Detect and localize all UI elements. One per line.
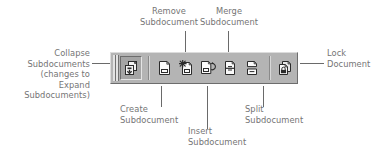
callout-label-create-subdocument: Create Subdocument xyxy=(120,104,186,125)
leader-line-lock xyxy=(300,63,324,64)
toolbar-button-lock-document[interactable] xyxy=(274,56,296,80)
callout-label-lock-document: Lock Document xyxy=(327,48,387,69)
create-subdocument-icon xyxy=(157,60,172,76)
toolbar-button-split-subdocument[interactable] xyxy=(241,56,263,80)
toolbar-button-merge-subdocument[interactable] xyxy=(219,56,241,80)
toolbar-grip-handle[interactable] xyxy=(113,55,119,81)
toolbar-separator-2 xyxy=(269,56,271,80)
toolbar-button-remove-subdocument[interactable] xyxy=(175,56,197,80)
leader-line-collapse xyxy=(92,63,112,64)
collapse-subdocuments-icon xyxy=(123,60,140,77)
leader-line-remove xyxy=(185,31,186,53)
figure-canvas: Collapse Subdocuments (changes to Expand… xyxy=(0,0,390,162)
callout-label-remove-subdocument: Remove Subdocument xyxy=(138,6,200,27)
remove-subdocument-icon xyxy=(179,60,194,76)
split-subdocument-icon xyxy=(245,60,259,76)
insert-subdocument-icon xyxy=(200,60,216,76)
leader-line-insert xyxy=(207,86,208,129)
callout-label-split-subdocument: Split Subdocument xyxy=(245,104,311,125)
toolbar-button-insert-subdocument[interactable] xyxy=(197,56,219,80)
master-document-toolbar[interactable] xyxy=(110,52,298,84)
callout-label-collapse-subdocuments: Collapse Subdocuments (changes to Expand… xyxy=(6,48,90,101)
toolbar-separator-1 xyxy=(148,56,150,80)
leader-line-create xyxy=(161,86,162,107)
callout-label-merge-subdocument: Merge Subdocument xyxy=(196,6,262,27)
merge-subdocument-icon xyxy=(223,60,237,76)
toolbar-button-collapse-subdocuments[interactable] xyxy=(120,56,142,80)
leader-line-merge xyxy=(228,31,229,53)
lock-document-icon xyxy=(277,60,293,76)
toolbar-button-create-subdocument[interactable] xyxy=(153,56,175,80)
callout-label-insert-subdocument: Insert Subdocument xyxy=(188,126,254,147)
leader-line-split xyxy=(263,86,264,107)
